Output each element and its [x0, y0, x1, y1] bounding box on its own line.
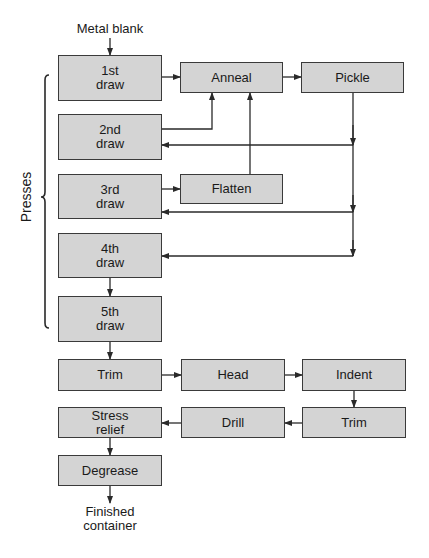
- node-label: draw: [96, 197, 124, 211]
- node-degrease: Degrease: [58, 455, 162, 486]
- node-label: Indent: [336, 368, 372, 382]
- node-label: 1st: [96, 64, 124, 78]
- output-label-line1: Finished: [60, 505, 160, 519]
- node-head: Head: [181, 359, 285, 391]
- presses-brace: [41, 75, 49, 328]
- node-label: 4th: [96, 242, 124, 256]
- output-label: Finished container: [60, 505, 160, 533]
- node-2nd-draw: 2nddraw: [58, 114, 162, 160]
- node-label: Trim: [97, 368, 123, 382]
- node-stress-relief: Stressrelief: [58, 407, 162, 438]
- output-label-line2: container: [60, 519, 160, 533]
- node-label: relief: [92, 423, 129, 437]
- node-1st-draw: 1stdraw: [58, 55, 162, 101]
- node-label: draw: [96, 256, 124, 270]
- node-label: draw: [96, 78, 124, 92]
- node-5th-draw: 5thdraw: [58, 296, 162, 342]
- node-drill: Drill: [181, 407, 285, 438]
- node-indent: Indent: [302, 359, 406, 391]
- node-trim-2: Trim: [302, 407, 406, 438]
- node-label: draw: [96, 319, 124, 333]
- node-label: Pickle: [335, 71, 370, 85]
- arrow-draw2-to-anneal: [162, 93, 212, 129]
- node-label: draw: [96, 137, 124, 151]
- node-label: Head: [217, 368, 248, 382]
- node-pickle: Pickle: [301, 62, 404, 93]
- group-label-presses: Presses: [18, 167, 34, 227]
- node-label: 5th: [96, 305, 124, 319]
- node-label: 2nd: [96, 123, 124, 137]
- node-trim-1: Trim: [58, 359, 162, 391]
- input-label: Metal blank: [60, 22, 160, 36]
- node-label: 3rd: [96, 183, 124, 197]
- node-label: Trim: [341, 416, 367, 430]
- node-label: Stress: [92, 409, 129, 423]
- node-4th-draw: 4thdraw: [58, 233, 162, 278]
- node-label: Degrease: [82, 464, 138, 478]
- node-label: Drill: [222, 416, 244, 430]
- node-label: Flatten: [212, 182, 252, 196]
- node-3rd-draw: 3rddraw: [58, 174, 162, 219]
- node-flatten: Flatten: [180, 174, 283, 204]
- node-label: Anneal: [211, 71, 251, 85]
- node-anneal: Anneal: [180, 62, 283, 93]
